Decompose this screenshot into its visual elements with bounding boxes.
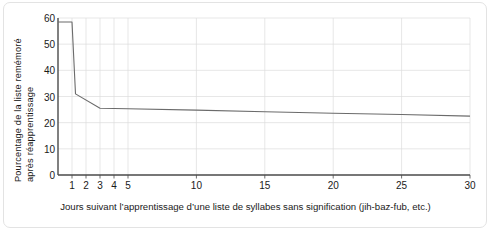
x-tick-label: 4 [111, 180, 117, 191]
x-tick-label: 20 [328, 180, 339, 191]
x-tick-label: 15 [259, 180, 270, 191]
forgetting-curve-figure: Pourcentage de la liste remémoré après r… [0, 0, 491, 231]
x-tick-label: 2 [83, 180, 89, 191]
x-tick-label: 3 [97, 180, 103, 191]
x-tick-label: 30 [464, 180, 475, 191]
x-tick-label: 1 [69, 180, 75, 191]
x-tick-labels: 123451015202530 [0, 0, 491, 231]
x-axis-title: Jours suivant l’apprentissage d’une list… [0, 201, 491, 212]
x-tick-label: 10 [191, 180, 202, 191]
x-tick-label: 5 [125, 180, 131, 191]
x-tick-label: 25 [396, 180, 407, 191]
